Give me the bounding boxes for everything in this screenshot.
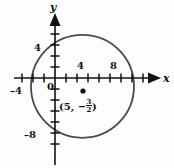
y-tick-label-minus-8: –8: [24, 130, 36, 140]
graph-figure: y x 0 4 –8 –4 4 8 (5, −32): [0, 0, 174, 168]
x-axis-label: x: [163, 73, 170, 84]
point-minus-sign: −: [78, 101, 86, 112]
x-tick-label-4: 4: [77, 61, 84, 71]
plotted-point-marker: [80, 88, 85, 93]
coordinate-plane-svg: [0, 0, 174, 168]
x-tick-label-8: 8: [110, 61, 117, 71]
point-x-text: (5,: [59, 101, 74, 112]
point-close-paren: ): [92, 101, 97, 112]
point-coordinate-label: (5, −32): [59, 98, 97, 113]
y-axis-arrow-icon: [50, 13, 61, 26]
x-axis-arrow-icon: [148, 73, 161, 84]
y-tick-label-4: 4: [34, 43, 41, 53]
y-axis-label: y: [50, 2, 56, 13]
x-tick-label-minus-4: –4: [10, 86, 22, 96]
origin-label: 0: [47, 82, 54, 92]
